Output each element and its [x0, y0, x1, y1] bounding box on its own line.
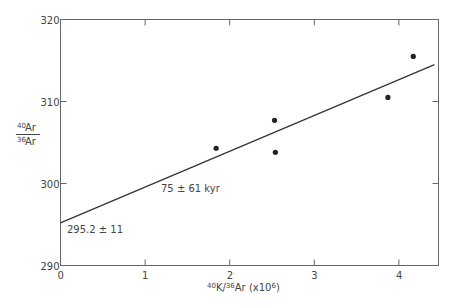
axis-tick-labels: 01234290300310320: [40, 15, 402, 281]
y-tick-label: 300: [40, 179, 59, 190]
chart-svg: 01234290300310320 75 ± 61 kyr 295.2 ± 11…: [0, 0, 451, 308]
y-tick-label: 290: [40, 261, 59, 272]
x-tick-label: 4: [396, 270, 402, 281]
data-point: [411, 54, 416, 59]
data-point: [214, 146, 219, 151]
svg-text:Ar: Ar: [25, 136, 37, 147]
x-tick-label: 2: [227, 270, 233, 281]
x-axis-label: 40K/36Ar (x106): [207, 282, 280, 293]
x-tick-label: 3: [311, 270, 317, 281]
age-annotation: 75 ± 61 kyr: [161, 183, 221, 194]
svg-text:Ar: Ar: [25, 122, 37, 133]
y-tick-label: 310: [40, 97, 59, 108]
x-tick-label: 1: [142, 270, 148, 281]
data-point: [385, 95, 390, 100]
data-point: [272, 118, 277, 123]
data-series: [61, 54, 435, 223]
y-axis-label: 40 Ar 36 Ar: [16, 122, 40, 147]
data-point: [273, 150, 278, 155]
y-tick-label: 320: [40, 15, 59, 26]
fit-line: [61, 65, 435, 223]
intercept-annotation: 295.2 ± 11: [67, 224, 123, 235]
